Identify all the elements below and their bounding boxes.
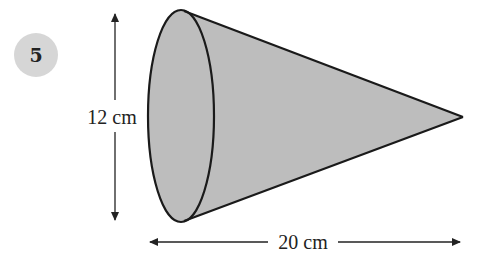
height-label: 12 cm — [87, 106, 137, 128]
question-figure: 5 12 cm 20 cm — [0, 0, 490, 262]
cone-shape — [148, 10, 463, 222]
length-label: 20 cm — [278, 231, 328, 253]
height-dimension: 12 cm — [87, 14, 137, 220]
question-number: 5 — [29, 44, 42, 66]
question-number-badge: 5 — [14, 33, 58, 77]
length-dimension: 20 cm — [150, 231, 460, 253]
